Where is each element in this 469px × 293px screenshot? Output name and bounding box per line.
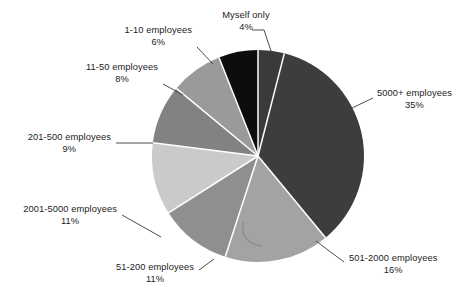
pie-label-11-50-employees-percent: 8% <box>86 74 158 86</box>
pie-label-11-50-employees: 11-50 employees 8% <box>86 62 158 85</box>
pie-label-2001-5000-employees: 2001-5000 employees 11% <box>23 204 117 227</box>
pie-chart-figure: Myself only 4% 5000+ employees 35% 501-2… <box>0 0 469 293</box>
pie-label-myself-only-percent: 4% <box>222 22 270 34</box>
pie-label-51-200-employees-percent: 11% <box>116 274 194 286</box>
pie-label-myself-only-name: Myself only <box>222 10 270 22</box>
pie-label-5000-plus-employees-name: 5000+ employees <box>377 88 452 100</box>
pie-label-2001-5000-employees-percent: 11% <box>23 216 117 228</box>
pie-label-201-500-employees-name: 201-500 employees <box>28 132 111 144</box>
pie-label-myself-only: Myself only 4% <box>222 10 270 33</box>
pie-label-11-50-employees-name: 11-50 employees <box>86 62 158 74</box>
pie-label-5000-plus-employees: 5000+ employees 35% <box>377 88 452 111</box>
leader-line-51-200-employees <box>199 259 214 270</box>
pie-label-501-2000-employees: 501-2000 employees 16% <box>349 253 438 276</box>
pie-label-51-200-employees: 51-200 employees 11% <box>116 262 194 285</box>
pie-label-5000-plus-employees-percent: 35% <box>377 100 452 112</box>
pie-label-1-10-employees-name: 1-10 employees <box>125 25 192 37</box>
leader-line-2001-5000-employees <box>122 215 161 237</box>
pie-label-2001-5000-employees-name: 2001-5000 employees <box>23 204 117 216</box>
leader-line-1-10-employees <box>197 47 213 64</box>
leader-line-5000-plus-employees <box>352 98 373 108</box>
pie-label-501-2000-employees-name: 501-2000 employees <box>349 253 438 265</box>
pie-label-1-10-employees-percent: 6% <box>125 37 192 49</box>
pie-label-51-200-employees-name: 51-200 employees <box>116 262 194 274</box>
pie-label-201-500-employees-percent: 9% <box>28 144 111 156</box>
leader-line-501-2000-employees <box>316 241 344 262</box>
pie-label-201-500-employees: 201-500 employees 9% <box>28 132 111 155</box>
pie-label-1-10-employees: 1-10 employees 6% <box>125 25 192 48</box>
pie-label-501-2000-employees-percent: 16% <box>349 265 438 277</box>
